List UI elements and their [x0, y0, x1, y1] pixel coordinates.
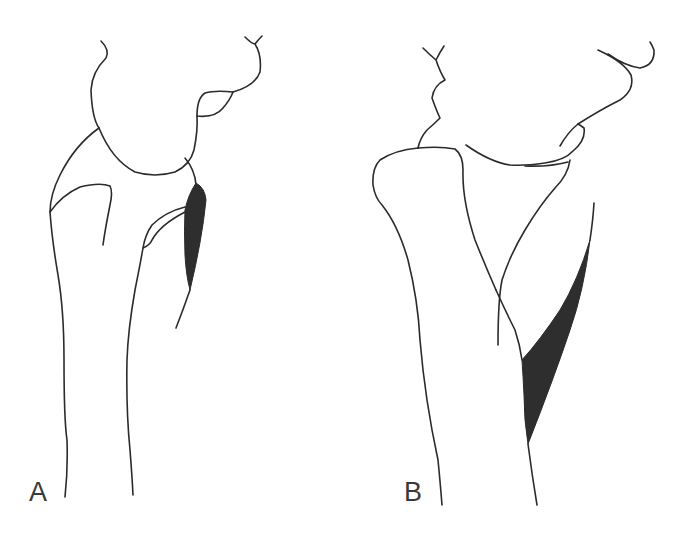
panel-a-upper-right-contour — [233, 36, 262, 92]
panel-a-drawing — [50, 36, 262, 497]
panel-a-left-shaft — [50, 128, 99, 497]
panel-a-tubercle — [197, 91, 233, 116]
figure-canvas: A B — [0, 0, 692, 537]
panel-b-drawing — [373, 42, 654, 505]
panel-b-upper-right-contour — [578, 42, 654, 124]
line-drawing — [0, 0, 692, 537]
panel-a-inner-shaft — [127, 207, 185, 495]
panel-a-head-outline — [91, 41, 197, 175]
panel-b-head-top — [418, 147, 496, 290]
panel-a-wedge-tail — [176, 290, 190, 328]
panel-b-shaded-region — [522, 240, 590, 444]
panel-b-articular-arc — [466, 124, 584, 165]
panel-a-shaded-region — [185, 183, 207, 290]
panel-b-wedge-tail — [528, 444, 537, 505]
panel-a-label: A — [29, 479, 47, 506]
panel-b-wavy-contour — [418, 46, 445, 148]
panel-b-upper-right-link — [560, 124, 578, 146]
panel-b-wedge-top-line — [590, 203, 594, 240]
panel-b-left-head — [373, 148, 442, 505]
panel-b-label: B — [404, 479, 422, 506]
panel-a-right-contour — [185, 158, 196, 185]
panel-a-inner-ridge — [50, 184, 112, 245]
